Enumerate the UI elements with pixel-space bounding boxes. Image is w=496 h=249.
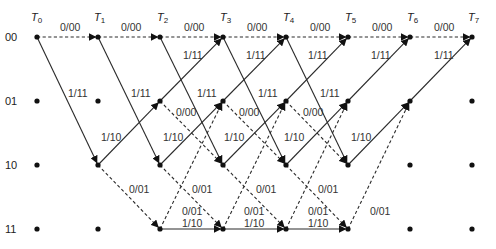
node-t1-00 <box>95 34 100 39</box>
edge-label: 0/01 <box>308 205 329 217</box>
edge-label: 1/11 <box>131 87 151 99</box>
edge-label: 1/11 <box>308 49 328 61</box>
time-label-t6: T6 <box>407 11 419 25</box>
node-t2-01 <box>157 98 162 103</box>
node-t5-00 <box>345 34 350 39</box>
node-t0-10 <box>34 162 39 167</box>
time-label-t1: T1 <box>94 11 106 25</box>
time-label-t3: T3 <box>220 11 232 25</box>
time-label-t0: T0 <box>31 11 43 25</box>
node-t5-10 <box>345 162 350 167</box>
node-t1-11 <box>95 226 100 231</box>
node-t0-00 <box>34 34 39 39</box>
edge-label: 0/00 <box>247 21 268 33</box>
edge-label: 1/11 <box>434 49 454 61</box>
edge-label: 1/10 <box>244 217 265 229</box>
edge-label: 0/00 <box>121 21 142 33</box>
edge-label: 1/10 <box>308 217 329 229</box>
edge-label: 0/00 <box>184 21 205 33</box>
edge-00-to-10 <box>37 37 97 163</box>
node-t4-00 <box>283 34 288 39</box>
edge-label: 0/00 <box>176 106 197 118</box>
node-t4-10 <box>283 162 288 167</box>
edge-label: 0/01 <box>129 183 150 195</box>
edge-label: 0/01 <box>256 183 277 195</box>
node-t7-00 <box>469 34 474 39</box>
node-t2-11 <box>157 226 162 231</box>
edge-label: 0/00 <box>303 106 324 118</box>
time-label-t7: T7 <box>468 11 480 25</box>
edge-label: 1/11 <box>68 87 88 99</box>
edge-label: 1/10 <box>284 131 305 143</box>
node-t7-10 <box>469 162 474 167</box>
edge-label: 0/00 <box>372 21 393 33</box>
edge-label: 1/10 <box>163 131 184 143</box>
node-t6-10 <box>407 162 412 167</box>
edge-label: 0/01 <box>244 205 265 217</box>
node-t6-00 <box>407 34 412 39</box>
time-label-t4: T4 <box>283 11 295 25</box>
edge-label: 1/10 <box>351 131 372 143</box>
time-label-t2: T2 <box>157 11 169 25</box>
edge-label: 1/11 <box>183 49 203 61</box>
node-t0-11 <box>34 226 39 231</box>
node-t3-11 <box>220 226 225 231</box>
node-t0-01 <box>34 98 39 103</box>
edge-label: 0/01 <box>370 205 391 217</box>
node-t2-10 <box>157 162 162 167</box>
edge-label: 0/01 <box>192 183 213 195</box>
edge-10-to-11 <box>98 165 158 227</box>
node-t4-11 <box>283 226 288 231</box>
edge-label: 1/11 <box>197 87 217 99</box>
edge-label: 1/10 <box>101 131 122 143</box>
state-labels: 00 01 10 11 <box>5 31 17 235</box>
edge-label: 0/00 <box>60 21 81 33</box>
edge-label: 0/00 <box>310 21 331 33</box>
node-t5-11 <box>345 226 350 231</box>
edge-label: 0/00 <box>239 106 260 118</box>
time-label-t5: T5 <box>345 11 357 25</box>
edge-00-to-10 <box>98 37 159 163</box>
edge-label: 1/10 <box>182 217 203 229</box>
node-t1-01 <box>95 98 100 103</box>
node-t3-00 <box>220 34 225 39</box>
edge-label: 0/00 <box>434 21 455 33</box>
node-t5-01 <box>345 98 350 103</box>
node-t4-01 <box>283 98 288 103</box>
node-t3-01 <box>220 98 225 103</box>
trellis-diagram: 0/000/000/000/000/000/000/001/111/111/11… <box>0 0 496 249</box>
state-label-01: 01 <box>5 95 17 107</box>
edge-label: 0/01 <box>182 205 203 217</box>
state-label-11: 11 <box>5 223 16 235</box>
edge-label: 1/11 <box>246 49 266 61</box>
node-t6-11 <box>407 226 412 231</box>
node-t1-10 <box>95 162 100 167</box>
state-label-00: 00 <box>5 31 17 43</box>
edge-label: 1/11 <box>320 87 340 99</box>
edge-label: 1/10 <box>224 131 245 143</box>
node-t6-01 <box>407 98 412 103</box>
node-t3-10 <box>220 162 225 167</box>
node-t2-00 <box>157 34 162 39</box>
edge-label: 1/11 <box>371 49 391 61</box>
node-t7-11 <box>469 226 474 231</box>
node-t7-01 <box>469 98 474 103</box>
edge-label: 1/11 <box>258 87 278 99</box>
edge-label: 0/01 <box>318 183 339 195</box>
state-label-10: 10 <box>5 159 17 171</box>
